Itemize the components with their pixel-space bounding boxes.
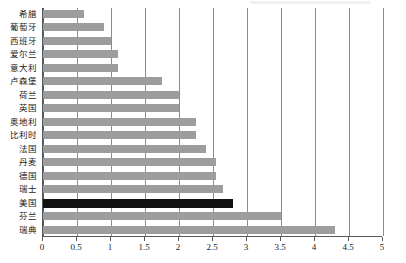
- category-label-15: 美国: [19, 197, 37, 210]
- tick-label-3: 3: [244, 242, 249, 252]
- category-label-3: 西班牙: [10, 35, 37, 48]
- category-label-6: 卢森堡: [10, 75, 37, 88]
- bar-4: [43, 50, 118, 58]
- bar-row: [43, 183, 382, 196]
- category-label-5: 意大利: [10, 62, 37, 75]
- category-label-2: 葡萄牙: [10, 21, 37, 34]
- bar-7: [43, 91, 179, 99]
- bar-row: [43, 170, 382, 183]
- tick-label-2-5: 2.5: [206, 242, 217, 252]
- bar-3: [43, 37, 111, 45]
- bar-row: [43, 35, 382, 48]
- tick-mark-5: [382, 237, 383, 241]
- tick-mark-2: [178, 237, 179, 241]
- gridline-5: [383, 8, 384, 236]
- tick-label-0-5: 0.5: [70, 242, 81, 252]
- category-label-7: 荷兰: [19, 89, 37, 102]
- bar-row: [43, 143, 382, 156]
- category-axis-labels: 希腊葡萄牙西班牙爱尔兰意大利卢森堡荷兰英国奥地利比利时法国丹麦德国瑞士美国芬兰瑞…: [0, 8, 40, 237]
- bar-16: [43, 212, 281, 220]
- bar-chart: 希腊葡萄牙西班牙爱尔兰意大利卢森堡荷兰英国奥地利比利时法国丹麦德国瑞士美国芬兰瑞…: [0, 0, 406, 263]
- bar-row: [43, 21, 382, 34]
- tick-mark-4-5: [348, 237, 349, 241]
- bar-row: [43, 197, 382, 210]
- category-label-14: 瑞士: [19, 183, 37, 196]
- tick-mark-3-5: [280, 237, 281, 241]
- bar-row: [43, 156, 382, 169]
- bar-11: [43, 145, 206, 153]
- tick-label-3-5: 3.5: [274, 242, 285, 252]
- category-label-8: 英国: [19, 102, 37, 115]
- bar-rows: [43, 8, 382, 236]
- category-label-12: 丹麦: [19, 156, 37, 169]
- bar-row: [43, 224, 382, 237]
- bar-row: [43, 129, 382, 142]
- bar-row: [43, 89, 382, 102]
- bar-9: [43, 118, 196, 126]
- bar-row: [43, 48, 382, 61]
- bar-row: [43, 102, 382, 115]
- bar-2: [43, 23, 104, 31]
- bar-17: [43, 226, 335, 234]
- tick-label-4: 4: [312, 242, 317, 252]
- bar-8: [43, 104, 179, 112]
- bar-row: [43, 62, 382, 75]
- bar-row: [43, 210, 382, 223]
- tick-label-0: 0: [40, 242, 45, 252]
- bar-row: [43, 75, 382, 88]
- bar-14: [43, 185, 223, 193]
- tick-label-2: 2: [176, 242, 181, 252]
- category-label-11: 法国: [19, 143, 37, 156]
- tick-mark-1-5: [144, 237, 145, 241]
- category-label-4: 爱尔兰: [10, 48, 37, 61]
- tick-mark-0: [42, 237, 43, 241]
- tick-label-5: 5: [380, 242, 385, 252]
- tick-mark-1: [110, 237, 111, 241]
- x-axis: 00.511.522.533.544.55: [42, 237, 382, 259]
- bar-1: [43, 10, 84, 18]
- tick-mark-3: [246, 237, 247, 241]
- bar-12: [43, 158, 216, 166]
- tick-mark-4: [314, 237, 315, 241]
- bar-13: [43, 172, 216, 180]
- bar-6: [43, 77, 162, 85]
- tick-mark-2-5: [212, 237, 213, 241]
- tick-mark-0-5: [76, 237, 77, 241]
- bar-15: [43, 199, 233, 208]
- bar-row: [43, 8, 382, 21]
- top-edge-artifact: [250, 1, 370, 4]
- tick-label-1-5: 1.5: [138, 242, 149, 252]
- category-label-9: 奥地利: [10, 116, 37, 129]
- tick-label-1: 1: [108, 242, 113, 252]
- plot-area: [42, 8, 382, 237]
- category-label-13: 德国: [19, 170, 37, 183]
- bar-5: [43, 64, 118, 72]
- bar-row: [43, 116, 382, 129]
- category-label-16: 芬兰: [19, 210, 37, 223]
- bar-10: [43, 131, 196, 139]
- category-label-17: 瑞典: [19, 224, 37, 237]
- category-label-1: 希腊: [19, 8, 37, 21]
- tick-label-4-5: 4.5: [342, 242, 353, 252]
- category-label-10: 比利时: [10, 129, 37, 142]
